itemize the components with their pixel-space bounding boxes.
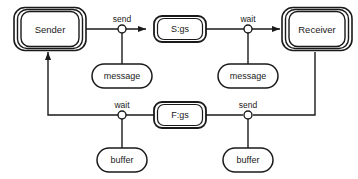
node-shape xyxy=(92,64,152,88)
junction-send-top[interactable] xyxy=(118,25,126,33)
diagram-canvas: Sender Receiver S:gs F:gs message messag… xyxy=(0,0,358,179)
diagram-graphics xyxy=(0,0,358,179)
process-node-receiver[interactable] xyxy=(282,8,352,51)
junction-wait-bottom[interactable] xyxy=(118,111,126,119)
process-node-sender[interactable] xyxy=(14,8,86,51)
junction-send-bottom[interactable] xyxy=(244,111,252,119)
resource-node-message-top-left[interactable] xyxy=(92,64,152,88)
resource-node-buffer-bottom-left[interactable] xyxy=(97,148,147,172)
node-inner-layer xyxy=(21,12,79,47)
node-inner-layer xyxy=(289,12,345,47)
resource-node-buffer-bottom-right[interactable] xyxy=(223,148,273,172)
node-shape xyxy=(218,64,278,88)
node-inner-layer xyxy=(158,105,203,126)
node-inner-layer xyxy=(158,19,203,40)
node-shape xyxy=(223,148,273,172)
resource-node-message-top-right[interactable] xyxy=(218,64,278,88)
node-shape xyxy=(97,148,147,172)
state-node-figs[interactable] xyxy=(154,102,206,128)
junction-wait-top[interactable] xyxy=(244,25,252,33)
state-node-sigs[interactable] xyxy=(154,16,206,42)
